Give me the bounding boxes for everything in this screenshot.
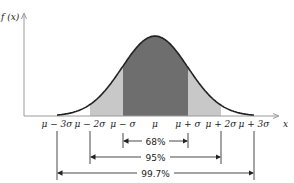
shaded-regions [90,0,221,116]
svg-text:99.7%: 99.7% [141,169,170,179]
tick-mu-minus-sigma: μ − σ [110,119,136,129]
tick-mu-plus-2sigma: μ + 2σ [206,119,238,129]
normal-distribution-chart: f (x) x μ − 3σ μ − 2σ μ − σ μ μ + σ μ + … [0,0,294,183]
tick-mu-minus-3sigma: μ − 3σ [42,119,74,129]
tick-mu-plus-sigma: μ + σ [175,119,201,129]
region-68 [123,0,188,116]
range-68: 68% [124,137,187,147]
y-axis-label: f (x) [0,12,20,22]
x-axis-label: x [283,119,288,129]
range-99-7: 99.7% [58,169,253,179]
svg-text:95%: 95% [145,153,165,163]
tick-mu-minus-2sigma: μ − 2σ [75,119,107,129]
svg-text:68%: 68% [145,137,165,147]
range-95: 95% [91,153,220,163]
tick-mu-plus-3sigma: μ + 3σ [239,119,271,129]
tick-mu: μ [152,119,158,129]
